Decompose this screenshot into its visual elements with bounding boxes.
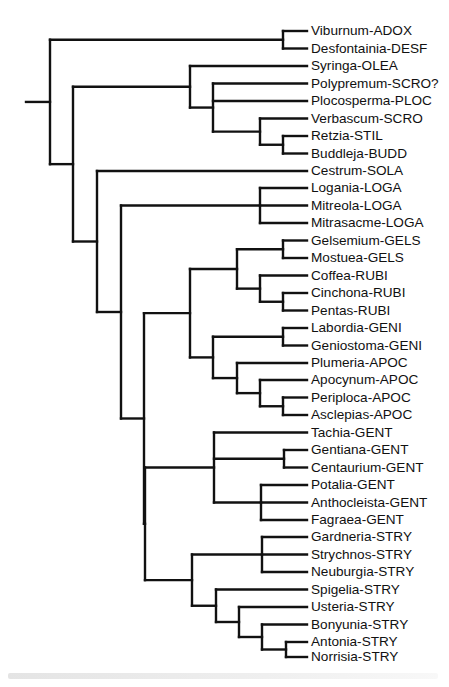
- tip-label: Logania-LOGA: [311, 180, 402, 196]
- tip-label: Cestrum-SOLA: [311, 163, 403, 179]
- tip-label: Syringa-OLEA: [311, 58, 398, 74]
- tip-label: Desfontainia-DESF: [311, 41, 427, 57]
- tip-label: Mitreola-LOGA: [311, 198, 402, 214]
- tip-label: Asclepias-APOC: [311, 407, 412, 423]
- tip-label: Usteria-STRY: [311, 599, 395, 615]
- tip-label: Apocynum-APOC: [311, 372, 418, 388]
- tip-label: Periploca-APOC: [311, 390, 411, 406]
- tip-label: Mitrasacme-LOGA: [311, 215, 424, 231]
- tip-label: Plumeria-APOC: [311, 355, 408, 371]
- tip-label: Verbascum-SCRO: [311, 111, 423, 127]
- tip-label: Norrisia-STRY: [311, 649, 398, 665]
- tip-label: Coffea-RUBI: [311, 268, 388, 284]
- tip-label: Buddleja-BUDD: [311, 146, 407, 162]
- tip-label: Centaurium-GENT: [311, 460, 424, 476]
- tip-label: Geniostoma-GENI: [311, 338, 422, 354]
- tip-label: Retzia-STIL: [311, 128, 383, 144]
- tip-label: Antonia-STRY: [311, 634, 398, 650]
- tip-label: Gentiana-GENT: [311, 442, 408, 458]
- tip-label: Fagraea-GENT: [311, 512, 404, 528]
- figure-caption: [8, 673, 438, 679]
- tip-label: Polypremum-SCRO?: [311, 76, 439, 92]
- tip-label: Bonyunia-STRY: [311, 617, 408, 633]
- tip-label: Strychnos-STRY: [311, 547, 412, 563]
- tip-label: Potalia-GENT: [311, 477, 395, 493]
- tip-label: Pentas-RUBI: [311, 303, 390, 319]
- tip-label: Gardneria-STRY: [311, 529, 412, 545]
- tip-label: Labordia-GENI: [311, 320, 402, 336]
- tip-label: Viburnum-ADOX: [311, 23, 412, 39]
- tip-label: Gelsemium-GELS: [311, 233, 421, 249]
- tip-label: Anthocleista-GENT: [311, 495, 427, 511]
- tip-label: Neuburgia-STRY: [311, 564, 414, 580]
- tip-label: Spigelia-STRY: [311, 582, 400, 598]
- tip-label: Mostuea-GELS: [311, 250, 404, 266]
- tip-label: Plocosperma-PLOC: [311, 93, 432, 109]
- tip-label: Tachia-GENT: [311, 425, 393, 441]
- tip-label: Cinchona-RUBI: [311, 285, 405, 301]
